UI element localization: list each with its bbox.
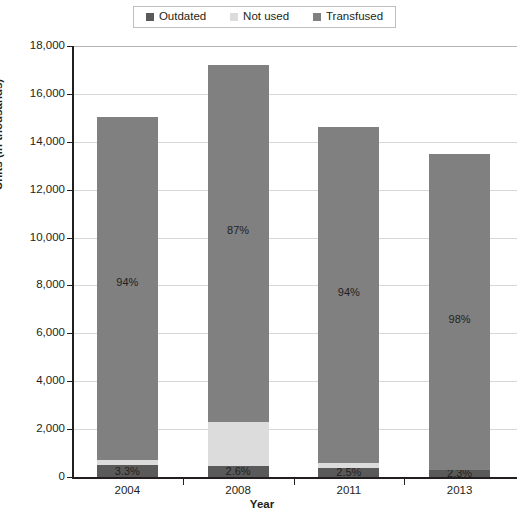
legend-swatch-not-used [230, 13, 238, 21]
y-axis-tick-label: 16,000 [3, 88, 65, 100]
bar-group[interactable]: 2.6%87% [208, 46, 269, 477]
y-axis-tick-label: 4,000 [3, 375, 65, 387]
x-axis-tick-mark [294, 479, 295, 485]
y-axis-tick-label: 14,000 [3, 136, 65, 148]
bar-group[interactable]: 3.3%94% [97, 46, 158, 477]
bars-layer: 3.3%94%2.6%87%2.5%94%2.3%98% [72, 46, 515, 477]
bar-segment-label: 3.3% [115, 466, 140, 477]
chart-legend: Outdated Not used Transfused [133, 6, 396, 28]
legend-swatch-transfused [313, 13, 321, 21]
legend-label-transfused: Transfused [326, 11, 383, 23]
y-axis-tick-label: 8,000 [3, 280, 65, 292]
x-axis-tick-label: 2013 [447, 485, 473, 497]
bar-segment-outdated[interactable]: 3.3% [97, 465, 158, 477]
x-axis-tick-label: 2004 [115, 485, 141, 497]
x-axis-title: Year [0, 498, 524, 510]
y-axis-tick-label: 6,000 [3, 328, 65, 340]
legend-item-not-used[interactable]: Not used [228, 11, 291, 23]
y-axis-tick-label: 12,000 [3, 184, 65, 196]
x-axis-tick-label: 2011 [337, 485, 362, 497]
bar-segment-not-used[interactable] [318, 463, 379, 469]
bar-segment-transfused[interactable]: 87% [208, 65, 269, 422]
legend-item-outdated[interactable]: Outdated [144, 11, 208, 23]
y-axis-tick-label: 18,000 [3, 40, 65, 52]
legend-label-outdated: Outdated [159, 11, 206, 23]
bar-segment-outdated[interactable]: 2.6% [208, 466, 269, 477]
x-axis-tick-label: 2008 [225, 485, 251, 497]
y-axis-tick-label: 0 [3, 471, 65, 483]
y-axis-tick-label: 10,000 [3, 232, 65, 244]
bar-segment-label: 94% [116, 277, 138, 288]
bar-group[interactable]: 2.5%94% [318, 46, 379, 477]
bar-segment-label: 94% [338, 287, 360, 298]
bar-segment-outdated[interactable]: 2.3% [429, 470, 490, 477]
y-axis-tick-label: 2,000 [3, 423, 65, 435]
legend-swatch-outdated [146, 13, 154, 21]
bar-segment-transfused[interactable]: 94% [97, 117, 158, 460]
x-axis-tick-mark [404, 479, 405, 485]
bar-segment-label: 2.5% [336, 467, 361, 478]
bar-segment-not-used[interactable] [208, 422, 269, 466]
bar-segment-outdated[interactable]: 2.5% [318, 468, 379, 477]
legend-label-not-used: Not used [243, 11, 289, 23]
x-axis-tick-mark [183, 479, 184, 485]
bar-segment-transfused[interactable]: 98% [429, 154, 490, 470]
stacked-bar-chart: Outdated Not used Transfused Units (in t… [0, 0, 524, 514]
legend-item-transfused[interactable]: Transfused [311, 11, 385, 23]
bar-segment-transfused[interactable]: 94% [318, 127, 379, 462]
bar-group[interactable]: 2.3%98% [429, 46, 490, 477]
bar-segment-label: 87% [227, 225, 249, 236]
bar-segment-label: 2.6% [226, 466, 251, 477]
bar-segment-label: 98% [449, 314, 471, 325]
bar-segment-not-used[interactable] [97, 460, 158, 465]
